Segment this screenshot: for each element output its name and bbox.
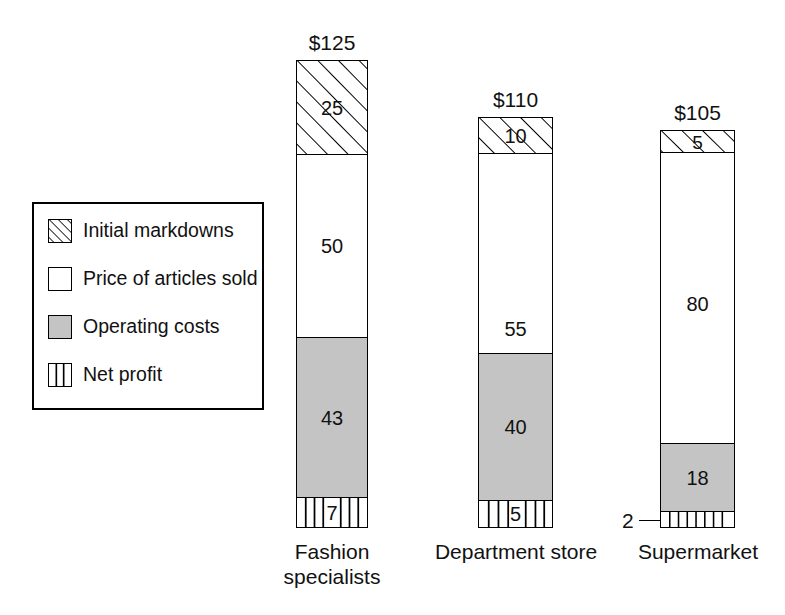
- segment-net-profit[interactable]: 5: [478, 500, 553, 528]
- legend-label: Net profit: [83, 365, 162, 385]
- segment-initial-markdowns[interactable]: 10: [478, 117, 553, 153]
- callout-leader-line: [639, 520, 661, 521]
- gray-swatch-icon: [48, 315, 72, 339]
- net-profit-callout-supermarket: 2: [622, 510, 661, 531]
- segment-initial-markdowns[interactable]: 25: [296, 60, 368, 154]
- bar-group-department-store: $110 10 55 40: [478, 0, 553, 615]
- white-swatch-icon: [48, 267, 72, 291]
- segment-value-label: 43: [297, 408, 367, 428]
- legend-item-operating-costs: Operating costs: [48, 314, 220, 340]
- bar-group-supermarket: $105 5 80 18: [660, 0, 735, 615]
- legend-label: Initial markdowns: [83, 221, 234, 241]
- legend-label: Price of articles sold: [83, 269, 257, 289]
- segment-operating-costs[interactable]: 43: [296, 337, 368, 497]
- segment-net-profit[interactable]: [660, 511, 735, 528]
- bar-caption-supermarket: Supermarket: [598, 540, 785, 565]
- segment-price-of-articles-sold[interactable]: 50: [296, 154, 368, 337]
- segment-net-profit[interactable]: 7: [296, 497, 368, 528]
- segment-operating-costs[interactable]: 18: [660, 443, 735, 511]
- bar-caption-line-2: specialists: [232, 565, 432, 590]
- bar-total-label: $125: [296, 32, 368, 53]
- bar-stack: 5 80 18: [660, 130, 735, 528]
- segment-operating-costs[interactable]: 40: [478, 353, 553, 500]
- segment-initial-markdowns[interactable]: 5: [660, 130, 735, 152]
- segment-value-label: 40: [479, 417, 552, 437]
- bar-group-fashion-specialists: $125 25 50 43: [296, 0, 368, 615]
- diagonal-hatch-swatch-icon: [48, 219, 72, 243]
- bar-caption-fashion-specialists: Fashion specialists: [232, 540, 432, 589]
- segment-price-of-articles-sold[interactable]: 55: [478, 153, 553, 353]
- bar-total-label: $105: [660, 102, 735, 123]
- legend-item-price-of-articles-sold: Price of articles sold: [48, 266, 257, 292]
- segment-value-label: 55: [479, 319, 552, 339]
- segment-price-of-articles-sold[interactable]: 80: [660, 152, 735, 443]
- stacked-bar-chart: Initial markdowns Price of articles sold…: [0, 0, 785, 615]
- segment-value-label: 50: [297, 236, 367, 256]
- bar-caption-line-1: Department store: [416, 540, 616, 565]
- bar-caption-line-1: Fashion: [232, 540, 432, 565]
- bar-caption-line-1: Supermarket: [598, 540, 785, 565]
- legend-item-net-profit: Net profit: [48, 362, 162, 388]
- vertical-hatch-swatch-icon: [48, 363, 72, 387]
- legend-item-initial-markdowns: Initial markdowns: [48, 218, 234, 244]
- bar-stack: 10 55 40 5: [478, 117, 553, 528]
- bar-caption-department-store: Department store: [416, 540, 616, 565]
- segment-value-label: 18: [661, 468, 734, 488]
- segment-value-label: 80: [661, 294, 734, 314]
- legend-label: Operating costs: [83, 317, 220, 337]
- callout-value-label: 2: [622, 510, 634, 531]
- bar-stack: 25 50 43 7: [296, 60, 368, 528]
- bar-total-label: $110: [478, 89, 553, 110]
- chart-legend: Initial markdowns Price of articles sold…: [32, 202, 264, 410]
